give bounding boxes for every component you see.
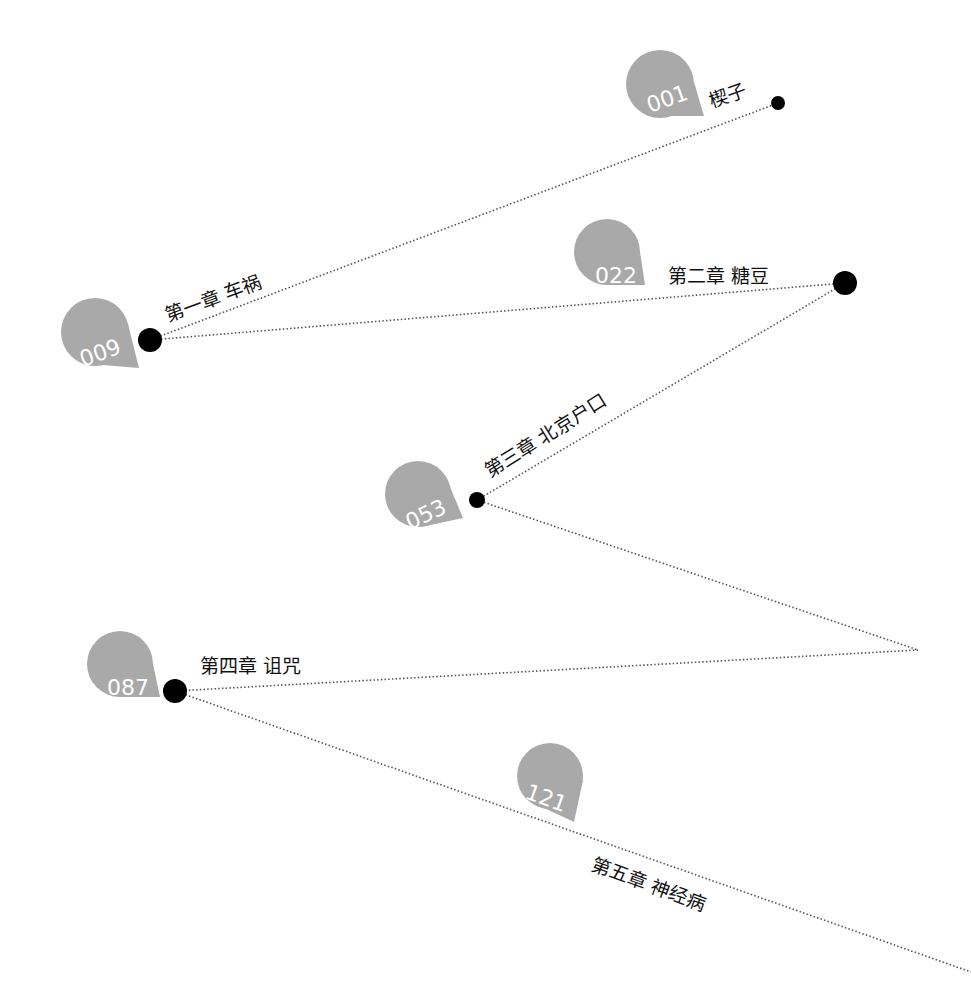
page-badge: 001 [626, 50, 704, 118]
timeline-dot[interactable] [469, 492, 485, 508]
page-badge: 121 [517, 743, 583, 822]
path-segment [477, 500, 918, 650]
path-segment [175, 691, 971, 972]
page-badge: 009 [61, 298, 139, 372]
timeline-dot[interactable] [771, 96, 785, 110]
chapter-node-001: 001 楔子 [626, 50, 785, 118]
timeline-dot[interactable] [833, 271, 857, 295]
chapter-label: 楔子 [706, 78, 749, 112]
timeline-path [150, 103, 971, 972]
chapter-node-022: 022 第二章 糖豆 [574, 219, 857, 295]
chapter-label: 第五章 神经病 [589, 853, 709, 915]
chapter-label: 第一章 车祸 [162, 271, 264, 326]
chapter-node-009: 009 第一章 车祸 [61, 271, 264, 372]
timeline-dot[interactable] [163, 679, 187, 703]
timeline-dot[interactable] [138, 328, 162, 352]
page-badge: 022 [574, 219, 645, 288]
path-segment [150, 103, 778, 340]
chapter-label: 第二章 糖豆 [668, 265, 769, 287]
chapter-node-087: 087 第四章 诅咒 [87, 631, 301, 703]
chapter-node-053: 053 第三章 北京户口 [385, 389, 610, 534]
chapter-timeline-diagram: 001 楔子 009 第一章 车祸 022 第二章 糖豆 053 第三章 北京户… [0, 0, 971, 985]
chapter-label: 第四章 诅咒 [200, 655, 301, 677]
page-number: 022 [595, 263, 637, 288]
page-badge: 053 [385, 461, 463, 535]
chapter-node-121: 121 第五章 神经病 [517, 743, 709, 915]
path-segment [477, 283, 845, 500]
page-badge: 087 [87, 631, 160, 700]
chapter-label: 第三章 北京户口 [480, 389, 610, 481]
page-number: 087 [107, 675, 149, 700]
